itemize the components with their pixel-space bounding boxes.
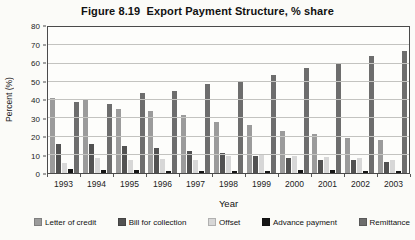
y-tick-mark — [43, 63, 46, 64]
legend-item-remittance: Remittance — [359, 218, 410, 227]
bar-advance-payment — [166, 171, 171, 173]
gridline — [48, 117, 409, 118]
bar-letter-of-credit — [247, 125, 252, 173]
x-tick-mark — [311, 174, 312, 177]
bar-remittance — [238, 82, 243, 173]
bar-group-1995 — [114, 27, 147, 173]
bar-offset — [62, 163, 67, 173]
y-tick-label: 50 — [0, 77, 40, 86]
bar-bill-for-collection — [318, 160, 323, 173]
legend-swatch-icon — [359, 218, 367, 226]
y-tick-label: 30 — [0, 114, 40, 123]
y-tick-label: 60 — [0, 59, 40, 68]
bar-advance-payment — [101, 170, 106, 173]
bar-advance-payment — [134, 170, 139, 173]
x-tick-mark — [47, 174, 48, 177]
bar-remittance — [74, 102, 79, 173]
bar-advance-payment — [232, 171, 237, 173]
bar-advance-payment — [199, 171, 204, 173]
x-tick-mark — [278, 174, 279, 177]
legend-label: Letter of credit — [45, 218, 96, 227]
x-axis-tick-marks — [47, 174, 410, 177]
x-tick-label: 2002 — [344, 179, 377, 189]
legend-label: Bill for collection — [129, 218, 187, 227]
bar-offset — [95, 158, 100, 173]
bar-remittance — [304, 68, 309, 173]
legend: Letter of creditBill for collectionOffse… — [34, 215, 410, 229]
gridline — [48, 63, 409, 64]
legend-swatch-icon — [34, 218, 42, 226]
bar-group-1999 — [245, 27, 278, 173]
bar-group-2001 — [311, 27, 344, 173]
bar-letter-of-credit — [280, 131, 285, 173]
y-tick-label: 40 — [0, 96, 40, 105]
y-tick-label: 0 — [0, 170, 40, 179]
y-tick-mark — [43, 100, 46, 101]
bar-bill-for-collection — [286, 158, 291, 173]
y-tick-mark — [43, 44, 46, 45]
legend-swatch-icon — [262, 218, 270, 226]
bar-bill-for-collection — [56, 144, 61, 173]
bar-letter-of-credit — [214, 122, 219, 173]
bar-group-1994 — [81, 27, 114, 173]
x-tick-mark — [245, 174, 246, 177]
bar-bill-for-collection — [154, 148, 159, 173]
y-tick-label: 20 — [0, 133, 40, 142]
x-tick-mark — [80, 174, 81, 177]
y-tick-mark — [43, 118, 46, 119]
bar-bill-for-collection — [384, 162, 389, 173]
x-tick-mark — [377, 174, 378, 177]
legend-label: Offset — [219, 218, 240, 227]
bar-group-1998 — [212, 27, 245, 173]
bar-advance-payment — [68, 169, 73, 173]
x-tick-label: 1999 — [245, 179, 278, 189]
bar-group-2000 — [278, 27, 311, 173]
gridline — [48, 44, 409, 45]
bar-advance-payment — [396, 171, 401, 173]
x-axis-title: Year — [47, 198, 410, 209]
y-tick-label: 10 — [0, 151, 40, 160]
bar-offset — [160, 159, 165, 173]
x-tick-mark — [179, 174, 180, 177]
bar-group-2002 — [343, 27, 376, 173]
y-tick-label: 80 — [0, 22, 40, 31]
x-tick-mark — [113, 174, 114, 177]
bar-advance-payment — [363, 171, 368, 173]
x-tick-label: 1994 — [80, 179, 113, 189]
gridline — [48, 99, 409, 100]
legend-item-offset: Offset — [208, 218, 240, 227]
bar-group-2003 — [376, 27, 409, 173]
x-tick-label: 1997 — [179, 179, 212, 189]
legend-swatch-icon — [118, 218, 126, 226]
bar-bill-for-collection — [351, 160, 356, 173]
gridline — [48, 136, 409, 137]
bar-bill-for-collection — [220, 153, 225, 173]
bar-remittance — [140, 93, 145, 173]
bar-groups — [48, 27, 409, 173]
x-tick-label: 2001 — [311, 179, 344, 189]
bar-letter-of-credit — [181, 115, 186, 173]
legend-swatch-icon — [208, 218, 216, 226]
y-tick-mark — [43, 81, 46, 82]
x-tick-mark — [344, 174, 345, 177]
bar-letter-of-credit — [116, 109, 121, 173]
bar-bill-for-collection — [253, 156, 258, 173]
x-tick-mark — [146, 174, 147, 177]
legend-item-advance-payment: Advance payment — [262, 218, 337, 227]
x-tick-label: 2003 — [377, 179, 410, 189]
bar-offset — [357, 158, 362, 173]
bar-offset — [259, 154, 264, 173]
bar-offset — [292, 156, 297, 173]
gridline — [48, 81, 409, 82]
bar-remittance — [369, 56, 374, 173]
y-tick-mark — [43, 137, 46, 138]
bar-remittance — [107, 104, 112, 173]
bar-advance-payment — [298, 170, 303, 173]
bar-group-1993 — [48, 27, 81, 173]
bar-group-1996 — [146, 27, 179, 173]
bar-offset — [193, 160, 198, 173]
y-tick-label: 70 — [0, 40, 40, 49]
y-axis: 01020304050607080 — [0, 26, 47, 174]
bar-bill-for-collection — [122, 146, 127, 173]
bar-remittance — [271, 75, 276, 173]
